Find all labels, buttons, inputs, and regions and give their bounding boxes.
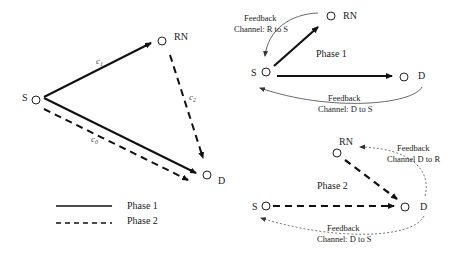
phase1-diagram: S RN D Phase 1 Feedback Channel: R to S … [234,10,425,114]
node-d [401,203,409,211]
node-s-label: S [22,92,28,103]
node-rn [327,12,335,20]
node-s-label: S [252,201,258,212]
feedback-ds-line1: Feedback [327,223,360,233]
node-d [400,73,408,81]
node-d [203,171,211,179]
node-rn [158,37,166,45]
node-s [32,96,40,104]
feedback-dr-line2: Channel D to R [387,154,440,164]
edge-label-c2: c2 [189,92,196,103]
node-rn-label: RN [343,10,357,21]
node-rn-label: RN [174,31,188,42]
edge-s-rn-phase1 [44,43,151,97]
edge-label-c0: c0 [91,134,98,145]
edge-s-d-phase1 [44,98,196,173]
node-d-label: D [420,201,427,212]
phase2-diagram: S RN D Phase 2 Feedback Channel D to R F… [252,136,440,244]
node-rn [333,149,341,157]
node-s [262,202,270,210]
legend-phase2-label: Phase 2 [127,215,158,226]
feedback-ds-line2: Channel: D to S [317,234,372,244]
node-s [262,68,270,76]
feedback-ds-line1: Feedback [328,93,361,103]
edge-label-c1: c1 [96,56,103,67]
node-d-label: D [418,70,425,81]
feedback-rs-line1: Feedback [244,13,277,23]
edge-rn-d-phase2 [170,55,203,158]
feedback-dr-line1: Feedback [397,143,430,153]
legend-phase1-label: Phase 1 [127,200,158,211]
feedback-rs-line2: Channel: R to S [234,24,288,34]
left-diagram: S RN D c1 c2 c0 Phase 1 Phase 2 [22,31,225,226]
relay-diagram: S RN D c1 c2 c0 Phase 1 Phase 2 S RN D P… [0,0,463,257]
node-s-label: S [251,67,257,78]
legend: Phase 1 Phase 2 [56,200,158,226]
phase-title: Phase 1 [316,48,347,59]
node-d-label: D [218,175,225,186]
edge-s-d-phase2 [44,109,188,180]
edge-rn-d [345,160,397,199]
feedback-ds-line2: Channel: D to S [318,104,373,114]
node-rn-label: RN [339,136,353,147]
phase-title: Phase 2 [317,180,348,191]
